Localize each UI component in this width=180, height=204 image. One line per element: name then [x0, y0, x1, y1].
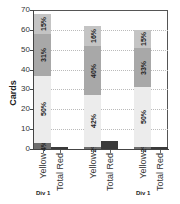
bar-segment: 50% [134, 87, 151, 147]
y-tick-label: 0 [10, 145, 30, 153]
x-tick-label: Total Red [105, 153, 115, 191]
group-label: Div 1 [136, 190, 150, 196]
bar-segment: 4% [34, 143, 51, 149]
segment-percent-label: 50% [39, 102, 46, 116]
x-tick-label: Yellow [38, 153, 48, 179]
y-tick-label: 40 [10, 66, 30, 74]
bar-segment [51, 147, 68, 149]
y-tick-label: 50 [10, 46, 30, 54]
segment-percent-label: 15% [39, 17, 46, 31]
x-tick-label: Yellow [88, 153, 98, 179]
x-axis [33, 149, 169, 150]
y-tick-label: 60 [10, 26, 30, 34]
bar-segment: 31% [34, 34, 51, 76]
segment-percent-label: 42% [89, 114, 96, 128]
y-axis-label: Cards [8, 78, 18, 108]
bar-segment: 50% [34, 76, 51, 144]
bar-segment: 15% [34, 14, 51, 34]
bar-segment: 16% [84, 26, 101, 46]
segment-percent-label: 15% [139, 32, 146, 46]
stacked-bar-chart: 010203040506070 Cards 4%50%31%15%2%42%40… [0, 0, 180, 204]
segment-percent-label: 16% [89, 29, 96, 43]
group-label: Div 1 [36, 190, 50, 196]
bar-segment: 2% [84, 147, 101, 149]
segment-percent-label: 33% [139, 61, 146, 75]
segment-percent-label: 40% [89, 64, 96, 78]
bar-segment: 2% [134, 147, 151, 149]
bar-segment [101, 141, 118, 149]
y-tick-label: 70 [10, 6, 30, 14]
segment-percent-label: 31% [39, 48, 46, 62]
bar-segment: 42% [84, 95, 101, 147]
y-tick-label: 10 [10, 125, 30, 133]
segment-percent-label: 50% [139, 110, 146, 124]
bar-segment: 40% [84, 46, 101, 96]
bar-segment [151, 147, 168, 149]
bar-segment: 33% [134, 48, 151, 88]
x-tick-label: Total Red [155, 153, 165, 191]
x-tick-label: Total Red [55, 153, 65, 191]
x-tick-label: Yellow [138, 153, 148, 179]
bar-segment: 15% [134, 30, 151, 48]
